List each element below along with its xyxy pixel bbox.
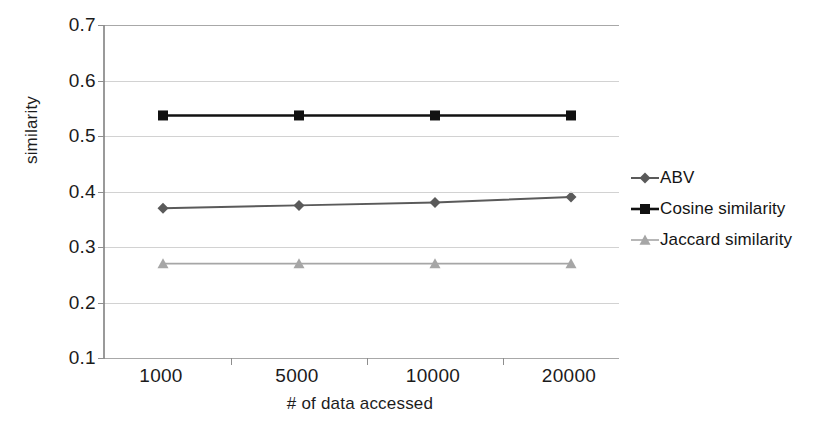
y-axis-tick-mark: [98, 81, 105, 82]
x-axis-tick-mark: [503, 358, 504, 365]
data-point-marker: [158, 110, 168, 120]
y-axis-tick-label: 0.1: [38, 347, 96, 369]
y-axis-tick-label: 0.7: [38, 14, 96, 36]
gridline: [105, 81, 619, 82]
data-point-marker: [294, 110, 304, 120]
gridline: [105, 358, 619, 359]
gridline: [105, 25, 619, 26]
plot-area: [103, 25, 619, 358]
legend-marker-triangle-icon: [630, 231, 660, 249]
data-point-marker: [640, 172, 651, 183]
gridline: [105, 136, 619, 137]
x-axis-tick-label: 5000: [237, 365, 357, 387]
legend-item-jaccard-similarity[interactable]: Jaccard similarity: [630, 224, 825, 255]
x-axis-tick-mark: [367, 358, 368, 365]
x-axis-tick-label: 1000: [101, 365, 221, 387]
legend-label: Cosine similarity: [660, 199, 785, 219]
legend-item-abv[interactable]: ABV: [630, 162, 825, 193]
data-point-marker: [158, 203, 169, 214]
data-point-marker: [640, 204, 650, 214]
chart-legend: ABVCosine similarityJaccard similarity: [630, 162, 825, 255]
series-abv: [158, 192, 577, 214]
y-axis-tick-label: 0.4: [38, 181, 96, 203]
gridline: [105, 192, 619, 193]
chart-figure: similarity 0.10.20.30.40.50.60.7 1000500…: [0, 0, 827, 441]
y-axis-tick-mark: [98, 247, 105, 248]
y-axis-tick-label: 0.2: [38, 292, 96, 314]
series-line: [163, 197, 571, 208]
legend-label: Jaccard similarity: [660, 230, 792, 250]
y-axis-tick-mark: [98, 358, 105, 359]
legend-item-cosine-similarity[interactable]: Cosine similarity: [630, 193, 825, 224]
gridline: [105, 247, 619, 248]
y-axis-tick-mark: [98, 192, 105, 193]
gridline: [105, 303, 619, 304]
x-axis-tick-label: 20000: [509, 365, 629, 387]
y-axis-tick-labels: 0.10.20.30.40.50.60.7: [38, 0, 96, 441]
data-point-marker: [430, 110, 440, 120]
x-axis-tick-mark: [231, 358, 232, 365]
x-axis-title: # of data accessed: [103, 394, 617, 414]
data-point-marker: [294, 200, 305, 211]
x-axis-tick-label: 10000: [373, 365, 493, 387]
x-axis-tick-labels: 100050001000020000: [103, 365, 617, 391]
legend-marker-diamond-icon: [630, 169, 660, 187]
legend-marker-square-icon: [630, 200, 660, 218]
y-axis-tick-mark: [98, 303, 105, 304]
legend-label: ABV: [660, 168, 694, 188]
data-point-marker: [566, 110, 576, 120]
data-point-marker: [430, 197, 441, 208]
y-axis-tick-label: 0.5: [38, 125, 96, 147]
series-jaccard-similarity: [158, 258, 577, 268]
y-axis-tick-label: 0.6: [38, 70, 96, 92]
y-axis-tick-label: 0.3: [38, 236, 96, 258]
y-axis-tick-mark: [98, 25, 105, 26]
data-point-marker: [566, 192, 577, 203]
series-cosine-similarity: [158, 110, 576, 120]
y-axis-tick-mark: [98, 136, 105, 137]
